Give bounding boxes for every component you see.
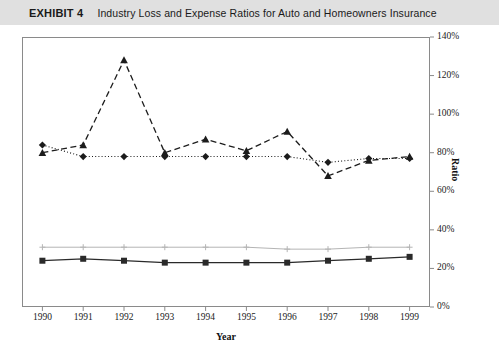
x-tick-label: 1994 bbox=[184, 312, 228, 322]
y-tick-label: 40% bbox=[437, 224, 454, 234]
y-tick-label: 60% bbox=[437, 185, 454, 195]
x-tick-label: 1993 bbox=[143, 312, 187, 322]
y-tick-label: 0% bbox=[437, 301, 450, 311]
series-homeowners-expense-ratio bbox=[39, 244, 412, 252]
y-tick-label: 120% bbox=[437, 70, 459, 80]
y-tick-label: 20% bbox=[437, 262, 454, 272]
chart-canvas bbox=[0, 0, 499, 353]
series-auto-loss-ratio bbox=[39, 141, 413, 166]
x-tick-label: 1995 bbox=[224, 312, 268, 322]
x-tick-label: 1997 bbox=[306, 312, 350, 322]
y-tick-label: 140% bbox=[437, 31, 459, 41]
x-tick-label: 1998 bbox=[347, 312, 391, 322]
y-tick-label: 80% bbox=[437, 147, 454, 157]
y-tick-label: 100% bbox=[437, 108, 459, 118]
series-auto-expense-ratio bbox=[39, 254, 412, 266]
x-tick-label: 1991 bbox=[61, 312, 105, 322]
x-tick-label: 1996 bbox=[265, 312, 309, 322]
x-axis-title: Year bbox=[0, 331, 452, 342]
series-homeowners-loss-ratio bbox=[39, 56, 414, 179]
x-tick-label: 1992 bbox=[102, 312, 146, 322]
x-tick-label: 1990 bbox=[20, 312, 64, 322]
y-axis-title: Ratio bbox=[450, 158, 461, 181]
x-tick-label: 1999 bbox=[388, 312, 432, 322]
